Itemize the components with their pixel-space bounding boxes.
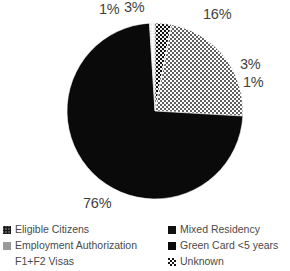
legend-column-right: Mixed Residency Green Card <5 years Unkn… — [168, 222, 290, 270]
data-label-eligible-citizens: 16% — [203, 7, 231, 22]
data-label-unknown: 3% — [124, 0, 145, 15]
legend-item-green-card[interactable]: Green Card <5 years — [168, 238, 290, 253]
legend-label-mixed-residency: Mixed Residency — [180, 223, 260, 236]
data-label-employment-authorization: 1% — [243, 75, 264, 90]
data-label-green-card: 76% — [83, 196, 111, 211]
legend-swatch-f1f2-visas-icon — [3, 258, 11, 266]
legend-swatch-eligible-citizens-icon — [3, 226, 11, 234]
legend-item-eligible-citizens[interactable]: Eligible Citizens — [3, 222, 163, 237]
legend-item-mixed-residency[interactable]: Mixed Residency — [168, 222, 290, 237]
legend-item-employment-authorization[interactable]: Employment Authorization — [3, 238, 163, 253]
pie-svg — [0, 0, 290, 215]
pie-chart-figure: 1% 3% 16% 3% 1% 76% Eligible Citizens Em… — [0, 0, 290, 271]
legend-item-unknown[interactable]: Unknown — [168, 254, 290, 269]
legend-swatch-unknown-icon — [168, 258, 176, 266]
data-label-mixed-residency: 3% — [240, 57, 261, 72]
legend-swatch-green-card-icon — [168, 242, 176, 250]
legend-swatch-mixed-residency-icon — [168, 226, 176, 234]
legend-item-f1f2-visas[interactable]: F1+F2 Visas — [3, 254, 163, 269]
legend-label-unknown: Unknown — [180, 255, 224, 268]
legend-label-f1f2-visas: F1+F2 Visas — [15, 255, 74, 268]
legend-column-left: Eligible Citizens Employment Authorizati… — [3, 222, 163, 270]
legend-swatch-employment-authorization-icon — [3, 242, 11, 250]
legend-label-green-card: Green Card <5 years — [180, 239, 278, 252]
data-label-f1f2-visas: 1% — [99, 2, 120, 17]
legend-label-eligible-citizens: Eligible Citizens — [15, 223, 89, 236]
pie-plot-area: 1% 3% 16% 3% 1% 76% — [0, 0, 290, 215]
legend-label-employment-authorization: Employment Authorization — [15, 239, 137, 252]
chart-legend: Eligible Citizens Employment Authorizati… — [0, 222, 290, 271]
